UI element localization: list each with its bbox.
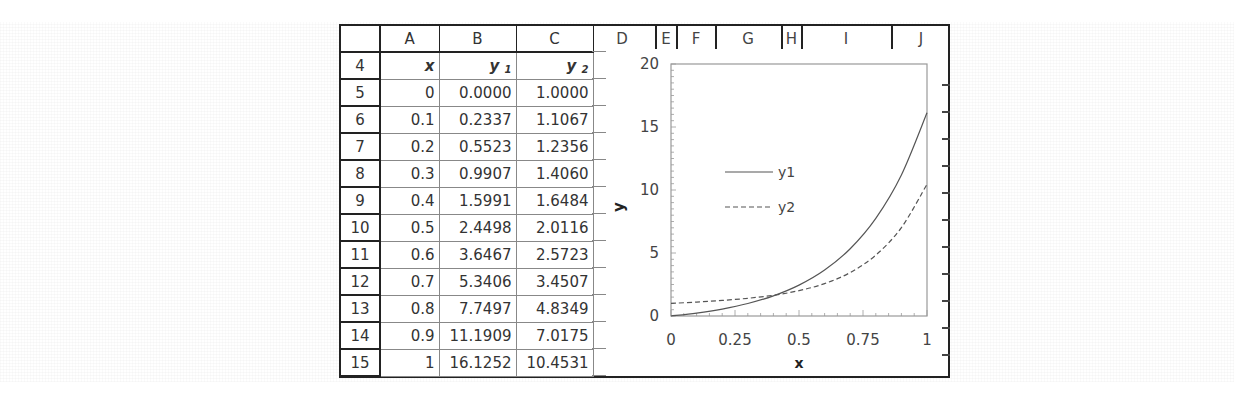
cell-x[interactable]: 0.7 — [380, 268, 439, 295]
cell-y1[interactable]: 0.9907 — [439, 160, 516, 187]
y-tick-label: 20 — [640, 55, 659, 73]
row-header[interactable]: 4 — [340, 52, 380, 79]
table-row: 70.20.55231.2356 — [340, 133, 593, 160]
x-tick-label: 0.5 — [787, 331, 811, 349]
cell-y2[interactable]: 10.4531 — [516, 349, 593, 376]
header-y1-subscript: 1 — [505, 64, 512, 75]
column-header-f[interactable]: F — [678, 30, 714, 48]
cell-y2[interactable]: 1.4060 — [516, 160, 593, 187]
table-row: 100.52.44982.0116 — [340, 214, 593, 241]
table-row: 120.75.34063.4507 — [340, 268, 593, 295]
cell-x[interactable]: 0.3 — [380, 160, 439, 187]
column-header-j[interactable]: J — [893, 30, 949, 48]
cell-y1[interactable]: 0.0000 — [439, 79, 516, 106]
cell-x[interactable]: 0.4 — [380, 187, 439, 214]
row-header[interactable]: 6 — [340, 106, 380, 133]
column-header-b[interactable]: B — [439, 25, 516, 52]
header-x-label: x — [425, 57, 435, 75]
cell-y1[interactable]: 5.3406 — [439, 268, 516, 295]
column-header-e[interactable]: E — [657, 30, 675, 48]
cell-y1[interactable]: 0.2337 — [439, 106, 516, 133]
row-header[interactable]: 12 — [340, 268, 380, 295]
row-header[interactable]: 7 — [340, 133, 380, 160]
row-header[interactable]: 13 — [340, 295, 380, 322]
column-header-h[interactable]: H — [783, 30, 800, 48]
cell-y2[interactable]: 1.2356 — [516, 133, 593, 160]
cell-x[interactable]: 0 — [380, 79, 439, 106]
y-tick-label: 5 — [649, 244, 659, 262]
row-header[interactable]: 8 — [340, 160, 380, 187]
series-y1-line — [671, 113, 927, 316]
table-row: 90.41.59911.6484 — [340, 187, 593, 214]
legend-y1-label: y1 — [778, 164, 795, 180]
y-tick-label: 0 — [649, 307, 659, 325]
legend-y2-label: y2 — [778, 199, 795, 215]
cell-y1[interactable]: 2.4498 — [439, 214, 516, 241]
table-row: 130.87.74974.8349 — [340, 295, 593, 322]
header-y2-label: y — [567, 57, 577, 75]
data-table: A B C 4 x y 1 y 2 500.00001.000060.10.23… — [339, 24, 594, 377]
cell-y1[interactable]: 3.6467 — [439, 241, 516, 268]
cell-y1[interactable]: 7.7497 — [439, 295, 516, 322]
cell-y1[interactable]: 16.1252 — [439, 349, 516, 376]
table-row: 60.10.23371.1067 — [340, 106, 593, 133]
header-y1-label: y — [490, 57, 500, 75]
cell-x[interactable]: 1 — [380, 349, 439, 376]
x-tick-label: 0.75 — [846, 331, 879, 349]
table-row: 500.00001.0000 — [340, 79, 593, 106]
row-header[interactable]: 14 — [340, 322, 380, 349]
row-header[interactable]: 15 — [340, 349, 380, 376]
cell-y1[interactable]: 0.5523 — [439, 133, 516, 160]
cell-y2[interactable]: 3.4507 — [516, 268, 593, 295]
x-tick-label: 0 — [666, 331, 676, 349]
cell-y2[interactable]: 7.0175 — [516, 322, 593, 349]
column-header-d[interactable]: D — [602, 30, 642, 48]
column-header-strip: D E F G H I J — [592, 24, 950, 51]
cell-header-y1[interactable]: y 1 — [439, 52, 516, 79]
table-row: 4 x y 1 y 2 — [340, 52, 593, 79]
cell-header-y2[interactable]: y 2 — [516, 52, 593, 79]
y-tick-label: 15 — [640, 118, 659, 136]
cell-y1[interactable]: 11.1909 — [439, 322, 516, 349]
cell-y2[interactable]: 2.5723 — [516, 241, 593, 268]
cell-y1[interactable]: 1.5991 — [439, 187, 516, 214]
column-header-i[interactable]: I — [803, 30, 889, 48]
cell-x[interactable]: 0.9 — [380, 322, 439, 349]
cell-x[interactable]: 0.1 — [380, 106, 439, 133]
x-axis-label: x — [794, 355, 803, 371]
row-header[interactable]: 11 — [340, 241, 380, 268]
column-header-g[interactable]: G — [717, 30, 779, 48]
cell-x[interactable]: 0.2 — [380, 133, 439, 160]
select-all-corner[interactable] — [340, 25, 380, 52]
y-tick-label: 10 — [640, 181, 659, 199]
row-header[interactable]: 10 — [340, 214, 380, 241]
cell-x[interactable]: 0.6 — [380, 241, 439, 268]
cell-y2[interactable]: 1.0000 — [516, 79, 593, 106]
row-header[interactable]: 9 — [340, 187, 380, 214]
cell-header-x[interactable]: x — [380, 52, 439, 79]
header-y2-subscript: 2 — [582, 64, 589, 75]
plot-frame — [671, 64, 927, 316]
column-header-a[interactable]: A — [380, 25, 439, 52]
x-tick-label: 1 — [922, 331, 932, 349]
table-row: 80.30.99071.4060 — [340, 160, 593, 187]
cell-x[interactable]: 0.5 — [380, 214, 439, 241]
cell-y2[interactable]: 4.8349 — [516, 295, 593, 322]
plot-area: 0510152000.250.50.751xy1y2 — [640, 55, 932, 371]
line-chart[interactable]: 0510152000.250.50.751xy1y2 — [592, 51, 950, 378]
row-header[interactable]: 5 — [340, 79, 380, 106]
column-header-c[interactable]: C — [516, 25, 593, 52]
cell-y2[interactable]: 1.1067 — [516, 106, 593, 133]
table-row: 110.63.64672.5723 — [340, 241, 593, 268]
table-row: 15116.125210.4531 — [340, 349, 593, 376]
cell-y2[interactable]: 1.6484 — [516, 187, 593, 214]
cell-y2[interactable]: 2.0116 — [516, 214, 593, 241]
table-row: 140.911.19097.0175 — [340, 322, 593, 349]
x-tick-label: 0.25 — [718, 331, 751, 349]
cell-x[interactable]: 0.8 — [380, 295, 439, 322]
